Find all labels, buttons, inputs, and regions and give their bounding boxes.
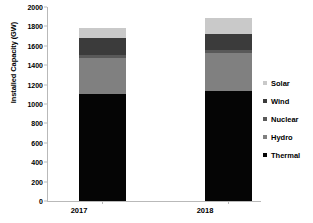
legend-item-nuclear[interactable]: Nuclear (263, 110, 313, 128)
bar-segment-thermal-2017[interactable] (79, 94, 126, 201)
bar-segment-wind-2017[interactable] (79, 38, 126, 54)
bar-group-2018[interactable] (205, 18, 252, 201)
y-tick-label: 400 (31, 159, 43, 166)
bar-stack (205, 18, 252, 201)
y-tick-label: 1600 (27, 42, 43, 49)
legend-item-wind[interactable]: Wind (263, 92, 313, 110)
bar-segment-wind-2018[interactable] (205, 34, 252, 50)
legend-label-nuclear: Nuclear (271, 115, 299, 124)
y-tick-mark (44, 201, 47, 202)
x-tick-mark (228, 201, 229, 204)
y-tick-mark (44, 123, 47, 124)
bar-segment-hydro-2018[interactable] (205, 53, 252, 91)
legend-swatch-hydro (263, 135, 267, 139)
y-axis-title: Installed Capacity (GW) (9, 0, 18, 128)
y-tick-label: 200 (31, 178, 43, 185)
bar-group-2017[interactable] (79, 28, 126, 201)
bar-segment-thermal-2018[interactable] (205, 91, 252, 201)
chart-legend: SolarWindNuclearHydroThermal (263, 74, 313, 164)
y-tick-mark (44, 45, 47, 46)
legend-item-thermal[interactable]: Thermal (263, 146, 313, 164)
y-tick-mark (44, 181, 47, 182)
bar-segment-solar-2017[interactable] (79, 28, 126, 38)
y-tick-label: 1200 (27, 81, 43, 88)
y-tick-mark (44, 142, 47, 143)
y-tick-label: 2000 (27, 4, 43, 11)
y-tick-mark (44, 84, 47, 85)
legend-label-wind: Wind (271, 97, 289, 106)
y-tick-label: 0 (39, 198, 43, 205)
legend-swatch-solar (263, 81, 267, 85)
x-tick-label-2018: 2018 (165, 206, 245, 215)
legend-swatch-nuclear (263, 117, 267, 121)
y-tick-mark (44, 26, 47, 27)
y-tick-label: 1000 (27, 101, 43, 108)
x-tick-mark (102, 201, 103, 204)
x-tick-label-2017: 2017 (39, 206, 119, 215)
y-tick-mark (44, 7, 47, 8)
legend-label-hydro: Hydro (271, 133, 293, 142)
plot-area: 0200400600800100012001400160018002000 (47, 7, 260, 201)
legend-label-solar: Solar (271, 79, 290, 88)
y-tick-mark (44, 65, 47, 66)
legend-item-solar[interactable]: Solar (263, 74, 313, 92)
legend-item-hydro[interactable]: Hydro (263, 128, 313, 146)
bar-segment-solar-2018[interactable] (205, 18, 252, 34)
legend-label-thermal: Thermal (271, 151, 300, 160)
bar-segment-hydro-2017[interactable] (79, 58, 126, 94)
y-tick-label: 1400 (27, 62, 43, 69)
y-tick-label: 600 (31, 139, 43, 146)
y-tick-label: 1800 (27, 23, 43, 30)
stacked-bar-chart: Installed Capacity (GW) 0200400600800100… (0, 0, 313, 223)
y-tick-mark (44, 104, 47, 105)
legend-swatch-wind (263, 99, 267, 103)
bar-stack (79, 28, 126, 201)
y-tick-label: 800 (31, 120, 43, 127)
y-tick-mark (44, 162, 47, 163)
legend-swatch-thermal (263, 153, 267, 157)
